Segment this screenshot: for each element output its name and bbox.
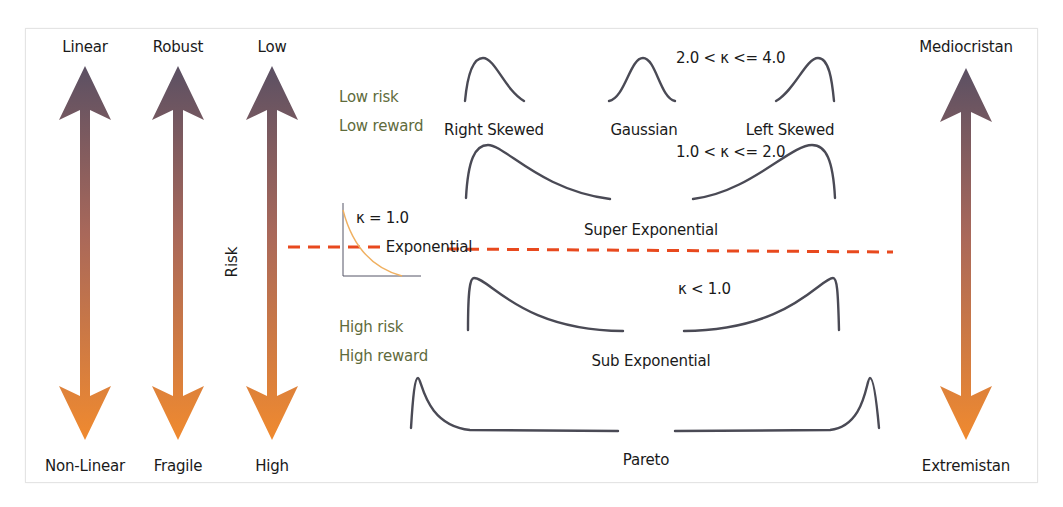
label-linear: Linear — [62, 38, 107, 56]
label-high: High — [255, 457, 289, 475]
label-kappa-sub-exp-range: κ < 1.0 — [678, 280, 731, 298]
label-robust: Robust — [153, 38, 203, 56]
curve-pareto-right — [411, 378, 618, 431]
arrow-robust-fragile — [152, 66, 204, 440]
label-kappa-super-exp-range: 1.0 < κ <= 2.0 — [676, 143, 785, 161]
label-extremistan: Extremistan — [922, 457, 1010, 475]
label-fragile: Fragile — [154, 457, 203, 475]
arrow-risk-low-high — [246, 66, 298, 440]
label-low-risk: Low risk — [339, 88, 399, 106]
label-super-exponential: Super Exponential — [584, 221, 718, 239]
label-high-risk: High risk — [339, 318, 403, 336]
label-low-reward: Low reward — [339, 117, 423, 135]
label-sub-exponential: Sub Exponential — [591, 352, 710, 370]
label-kappa-gaussian-range: 2.0 < κ <= 4.0 — [676, 49, 785, 67]
label-left-skewed: Left Skewed — [746, 121, 835, 139]
label-right-skewed: Right Skewed — [444, 121, 544, 139]
label-risk-axis: Risk — [223, 246, 241, 277]
label-mediocristan: Mediocristan — [919, 38, 1013, 56]
label-high-reward: High reward — [339, 347, 428, 365]
curve-right-skewed-small — [465, 58, 524, 101]
curve-super-exponential-right — [466, 145, 610, 199]
label-low: Low — [258, 38, 287, 56]
curve-gaussian — [609, 58, 675, 101]
arrow-linear-nonlinear — [59, 66, 111, 440]
label-kappa-exponential: κ = 1.0 — [356, 209, 409, 227]
label-gaussian: Gaussian — [610, 121, 677, 139]
diagram-canvas — [0, 0, 1063, 507]
curve-sub-exponential-right — [468, 278, 623, 331]
arrow-mediocristan-extremistan — [940, 68, 992, 440]
exponential-threshold-line-right — [447, 249, 893, 252]
label-pareto: Pareto — [623, 451, 670, 469]
label-exponential: Exponential — [386, 238, 473, 256]
curve-pareto-left — [675, 378, 879, 431]
label-non-linear: Non-Linear — [45, 457, 125, 475]
